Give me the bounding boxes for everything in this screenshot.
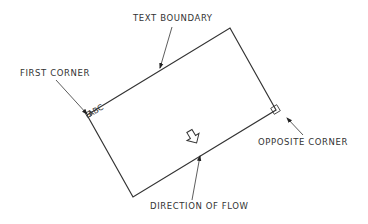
first-corner-leader [56,80,87,114]
text-boundary-leader [160,27,172,68]
flow-direction-arrow-icon [183,127,202,146]
direction-of-flow-leader [192,156,200,200]
text-boundary-rectangle [87,28,276,197]
direction-of-flow-label: DIRECTION OF FLOW [150,202,249,211]
text-boundary-label: TEXT BOUNDARY [133,14,213,23]
opposite-corner-leader [287,118,303,135]
first-corner-label: FIRST CORNER [20,69,90,78]
text-boundary-diagram: ABC [0,0,368,224]
opposite-corner-label: OPPOSITE CORNER [258,138,348,147]
